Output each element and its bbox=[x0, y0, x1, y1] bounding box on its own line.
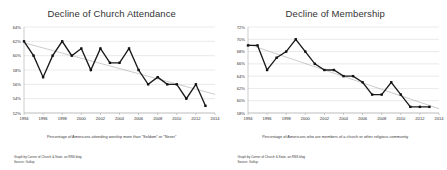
data-point-marker bbox=[313, 63, 315, 65]
credit-line-2: Source: Gallup bbox=[14, 160, 82, 164]
data-point-marker bbox=[32, 54, 34, 56]
x-axis-tick-label: 2012 bbox=[191, 116, 201, 121]
chart-panel-church-attendance: Decline of Church Attendance 52%54%56%58… bbox=[0, 0, 224, 170]
data-point-marker bbox=[409, 106, 411, 108]
x-axis-tick-label: 2000 bbox=[77, 116, 87, 121]
y-axis-tick-label: 72% bbox=[236, 25, 245, 30]
data-point-marker bbox=[265, 69, 267, 71]
data-point-marker bbox=[380, 93, 382, 95]
x-axis-tick-label: 2006 bbox=[358, 116, 368, 121]
data-point-marker bbox=[185, 97, 187, 99]
data-point-marker bbox=[90, 69, 92, 71]
data-point-marker bbox=[361, 81, 363, 83]
data-point-marker bbox=[195, 83, 197, 85]
x-axis-tick-label: 2002 bbox=[319, 116, 329, 121]
chart-panel-membership: Decline of Membership 58%60%62%64%66%68%… bbox=[224, 0, 447, 170]
x-axis-tick-label: 2008 bbox=[153, 116, 163, 121]
y-axis-tick-label: 56% bbox=[13, 82, 22, 87]
data-point-marker bbox=[399, 93, 401, 95]
data-point-marker bbox=[294, 38, 296, 40]
plot-area-membership: 58%60%62%64%66%68%70%72%1994199619982000… bbox=[224, 21, 447, 133]
plot-area-church-attendance: 52%54%56%58%60%62%64%1994199619982000200… bbox=[0, 21, 224, 133]
x-axis-tick-label: 1998 bbox=[58, 116, 68, 121]
data-point-marker bbox=[332, 69, 334, 71]
y-axis-tick-label: 52% bbox=[13, 111, 22, 116]
data-point-marker bbox=[166, 83, 168, 85]
data-point-marker bbox=[80, 47, 82, 49]
x-axis-tick-label: 2010 bbox=[172, 116, 182, 121]
data-point-marker bbox=[256, 44, 258, 46]
data-point-marker bbox=[204, 105, 206, 107]
chart-title-membership: Decline of Membership bbox=[224, 8, 447, 19]
data-point-marker bbox=[285, 50, 287, 52]
y-axis-tick-label: 60% bbox=[236, 98, 245, 103]
charts-board: Decline of Church Attendance 52%54%56%58… bbox=[0, 0, 447, 170]
data-point-marker bbox=[428, 106, 430, 108]
data-point-marker bbox=[370, 93, 372, 95]
data-point-marker bbox=[51, 54, 53, 56]
x-axis-tick-label: 2006 bbox=[134, 116, 144, 121]
x-axis-tick-label: 1994 bbox=[19, 116, 29, 121]
x-axis-tick-label: 2014 bbox=[434, 116, 444, 121]
data-point-marker bbox=[128, 47, 130, 49]
data-point-marker bbox=[23, 40, 25, 42]
data-point-marker bbox=[157, 76, 159, 78]
data-series-line bbox=[24, 41, 205, 106]
data-point-marker bbox=[418, 106, 420, 108]
y-axis-tick-label: 62% bbox=[236, 86, 245, 91]
x-axis-tick-label: 2004 bbox=[338, 116, 348, 121]
data-point-marker bbox=[323, 69, 325, 71]
x-axis-tick-label: 1994 bbox=[243, 116, 253, 121]
data-point-marker bbox=[137, 69, 139, 71]
y-axis-tick-label: 58% bbox=[13, 68, 22, 73]
data-point-marker bbox=[275, 57, 277, 59]
credit-line-2: Source: Gallup bbox=[238, 160, 306, 164]
data-point-marker bbox=[99, 47, 101, 49]
x-axis-tick-label: 1998 bbox=[281, 116, 291, 121]
data-point-marker bbox=[351, 75, 353, 77]
data-point-marker bbox=[42, 76, 44, 78]
credit-line-1: Graph by Corner of Church & State, an RN… bbox=[238, 155, 306, 159]
line-chart-church-attendance: 52%54%56%58%60%62%64%1994199619982000200… bbox=[0, 21, 223, 133]
y-axis-tick-label: 58% bbox=[236, 111, 245, 116]
x-axis-tick-label: 2002 bbox=[96, 116, 106, 121]
x-axis-tick-label: 2000 bbox=[300, 116, 310, 121]
data-point-marker bbox=[342, 75, 344, 77]
y-axis-tick-label: 64% bbox=[236, 74, 245, 79]
data-point-marker bbox=[176, 83, 178, 85]
data-point-marker bbox=[118, 62, 120, 64]
data-point-marker bbox=[147, 83, 149, 85]
chart-subtitle-membership: Percentage of Americans who are members … bbox=[224, 134, 447, 139]
chart-credit-membership: Graph by Corner of Church & State, an RN… bbox=[238, 155, 306, 164]
trend-line bbox=[24, 43, 215, 95]
data-point-marker bbox=[390, 81, 392, 83]
x-axis-tick-label: 2012 bbox=[415, 116, 425, 121]
y-axis-tick-label: 54% bbox=[13, 96, 22, 101]
x-axis-tick-label: 2010 bbox=[396, 116, 406, 121]
data-point-marker bbox=[246, 44, 248, 46]
data-point-marker bbox=[71, 54, 73, 56]
data-point-marker bbox=[109, 62, 111, 64]
x-axis-tick-label: 1996 bbox=[262, 116, 272, 121]
data-series-line bbox=[248, 39, 429, 107]
y-axis-tick-label: 64% bbox=[13, 25, 22, 30]
y-axis-tick-label: 68% bbox=[236, 49, 245, 54]
chart-credit-church-attendance: Graph by Corner of Church & State, an RN… bbox=[14, 155, 82, 164]
line-chart-membership: 58%60%62%64%66%68%70%72%1994199619982000… bbox=[224, 21, 447, 133]
x-axis-tick-label: 2004 bbox=[115, 116, 125, 121]
y-axis-tick-label: 70% bbox=[236, 37, 245, 42]
x-axis-tick-label: 1996 bbox=[39, 116, 49, 121]
chart-subtitle-church-attendance: Percentage of Americans attending worshi… bbox=[0, 134, 224, 139]
credit-line-1: Graph by Corner of Church & State, an RN… bbox=[14, 155, 82, 159]
data-point-marker bbox=[61, 40, 63, 42]
y-axis-tick-label: 60% bbox=[13, 53, 22, 58]
y-axis-tick-label: 66% bbox=[236, 61, 245, 66]
y-axis-tick-label: 62% bbox=[13, 39, 22, 44]
chart-title-church-attendance: Decline of Church Attendance bbox=[0, 8, 224, 19]
x-axis-tick-label: 2014 bbox=[210, 116, 220, 121]
data-point-marker bbox=[304, 50, 306, 52]
x-axis-tick-label: 2008 bbox=[377, 116, 387, 121]
